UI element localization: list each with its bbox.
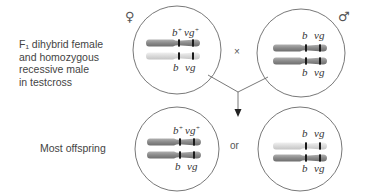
svg-text:b: b — [175, 160, 181, 172]
svg-text:vg: vg — [185, 61, 196, 73]
testcross-diagram: b+ vg+ b vg b vg b vg b+ vg+ b vg b vg b… — [0, 0, 366, 196]
svg-text:vg+: vg+ — [184, 26, 199, 38]
svg-text:vg: vg — [187, 160, 198, 172]
arrow-down-icon — [235, 109, 242, 117]
svg-text:b: b — [302, 29, 308, 41]
cell-female-parent: b+ vg+ b vg — [133, 6, 221, 94]
cell-offspring-2: b vg b vg — [258, 107, 342, 191]
svg-text:b: b — [302, 66, 308, 78]
svg-text:b: b — [173, 61, 179, 73]
cell-male-parent: b vg b vg — [257, 9, 345, 97]
svg-text:b+: b+ — [173, 124, 184, 136]
svg-text:b+: b+ — [172, 26, 183, 38]
cross-lines — [208, 75, 268, 110]
cell-offspring-1: b+ vg+ b vg — [135, 107, 219, 191]
svg-text:b: b — [302, 127, 308, 139]
svg-text:vg+: vg+ — [185, 124, 200, 136]
svg-text:vg: vg — [314, 127, 325, 139]
svg-text:b: b — [302, 162, 308, 174]
svg-text:vg: vg — [314, 29, 325, 41]
svg-text:vg: vg — [314, 66, 325, 78]
svg-text:vg: vg — [314, 162, 325, 174]
